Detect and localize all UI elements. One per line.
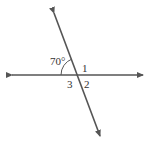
angle-label-70: 70°	[50, 56, 65, 67]
angle-label-3: 3	[67, 79, 73, 90]
intersecting-lines-diagram	[0, 0, 149, 145]
angle-label-1: 1	[82, 63, 88, 74]
angle-label-2: 2	[84, 79, 90, 90]
